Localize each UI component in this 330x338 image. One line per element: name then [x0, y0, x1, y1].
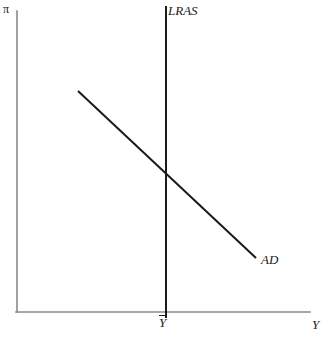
y-axis-label: π: [3, 3, 9, 15]
lras-curve-label: LRAS: [168, 4, 198, 17]
diagram-canvas: [0, 0, 330, 338]
potential-output-tick-label: Y: [159, 316, 166, 329]
potential-output-letter: Y: [159, 315, 166, 330]
ad-curve-label: AD: [261, 253, 278, 266]
ad-lras-diagram: π LRAS AD Y Y: [0, 0, 330, 338]
overbar-decoration: [159, 315, 166, 316]
x-axis-label: Y: [312, 318, 319, 331]
